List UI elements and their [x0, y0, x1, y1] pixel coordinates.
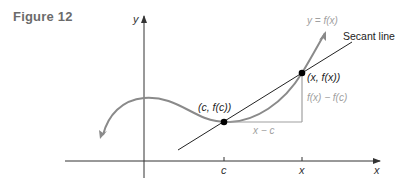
secant-label: Secant line: [343, 30, 395, 42]
x-axis-label: x: [373, 164, 380, 176]
secant-line-extension: [302, 42, 352, 73]
curve-right-arrow-icon: [319, 31, 326, 41]
secant-diagram: y x c x y = f(x) Secant line (c, f(c)) (…: [0, 0, 410, 189]
point-x: [299, 70, 306, 77]
function-curve: [103, 33, 325, 135]
rise-label: f(x) − f(c): [307, 92, 347, 103]
point-x-label: (x, f(x)): [307, 71, 340, 83]
tick-label-x: x: [298, 164, 305, 176]
y-axis-label: y: [132, 13, 140, 25]
tick-label-c: c: [221, 164, 227, 176]
run-label: x − c: [252, 125, 274, 136]
point-c: [221, 119, 228, 126]
point-c-label: (c, f(c)): [198, 101, 231, 113]
secant-line: [178, 73, 302, 150]
curve-label: y = f(x): [306, 15, 338, 26]
